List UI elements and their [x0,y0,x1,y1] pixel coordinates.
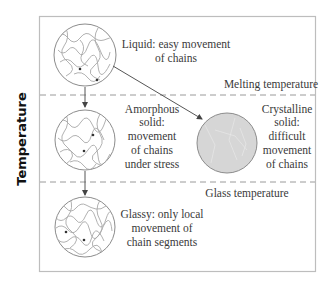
svg-text:of chains: of chains [131,144,173,156]
svg-text:movement: movement [128,130,177,142]
temperature-axis-label: Temperature [14,92,29,186]
svg-text:solid:: solid: [274,116,300,128]
crystalline-description: Crystalline solid: difficult movement of… [262,103,312,170]
svg-text:under stress: under stress [125,158,180,170]
liquid-state-circle [54,24,116,86]
amorphous-solid-circle [55,110,115,170]
glassy-state-circle [55,197,116,257]
amorphous-description: Amorphous solid: movement of chains unde… [125,103,180,170]
svg-text:difficult: difficult [269,130,307,142]
svg-text:movement: movement [263,144,312,156]
svg-text:Glassy: only local: Glassy: only local [120,208,203,221]
svg-text:Liquid: easy movement: Liquid: easy movement [122,38,231,51]
liquid-description: Liquid: easy movement of chains [122,38,231,64]
glassy-description: Glassy: only local movement of chain seg… [120,208,203,249]
polymer-state-diagram: Temperature Melting temperature Glass te… [0,0,331,286]
svg-text:movement of: movement of [132,222,193,234]
svg-text:chain segments: chain segments [127,236,198,249]
melting-temperature-label: Melting temperature [224,78,318,91]
svg-text:Crystalline: Crystalline [262,103,312,116]
svg-text:of chains: of chains [155,52,197,64]
svg-text:Amorphous: Amorphous [125,103,180,116]
glass-temperature-label: Glass temperature [205,187,288,200]
crystalline-solid-circle [197,113,257,173]
svg-text:of chains: of chains [266,158,308,170]
svg-text:solid:: solid: [139,116,165,128]
